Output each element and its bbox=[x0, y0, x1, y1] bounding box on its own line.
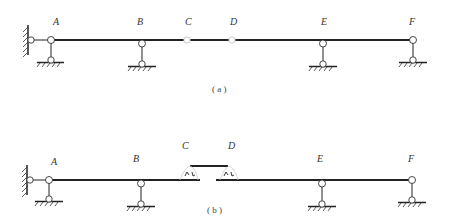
link-support-f-icon bbox=[399, 37, 427, 68]
figure-a: A B C D E F ( a ) bbox=[23, 16, 427, 94]
link-support-f-icon bbox=[398, 177, 426, 208]
label-e: E bbox=[320, 16, 327, 27]
link-support-e-icon bbox=[308, 180, 336, 211]
link-support-a-icon bbox=[37, 37, 64, 68]
link-support-b-icon bbox=[127, 180, 155, 211]
caption-b: ( b ) bbox=[207, 205, 222, 215]
label-d: D bbox=[227, 140, 236, 151]
wall-support-icon bbox=[23, 25, 51, 57]
figure-b: A B C D E F ( b ) bbox=[22, 140, 426, 215]
label-f: F bbox=[408, 16, 416, 27]
label-e: E bbox=[316, 153, 323, 164]
caption-a: ( a ) bbox=[212, 84, 227, 94]
link-support-e-icon bbox=[309, 40, 337, 71]
label-a: A bbox=[52, 16, 60, 27]
wall-support-icon bbox=[22, 165, 49, 197]
label-b: B bbox=[133, 153, 139, 164]
structural-diagram: A B C D E F ( a ) bbox=[0, 0, 450, 219]
link-support-a-icon bbox=[35, 177, 63, 207]
label-c: C bbox=[182, 140, 189, 151]
label-a: A bbox=[50, 156, 58, 167]
label-d: D bbox=[229, 16, 238, 27]
label-c: C bbox=[185, 16, 192, 27]
link-support-b-icon bbox=[128, 40, 156, 71]
hinge-c-icon bbox=[184, 37, 190, 43]
label-f: F bbox=[407, 153, 415, 164]
label-b: B bbox=[137, 16, 143, 27]
hinge-d-icon bbox=[229, 37, 235, 43]
hinge-c-release-icon bbox=[180, 166, 198, 180]
hinge-d-release-icon bbox=[220, 166, 238, 180]
